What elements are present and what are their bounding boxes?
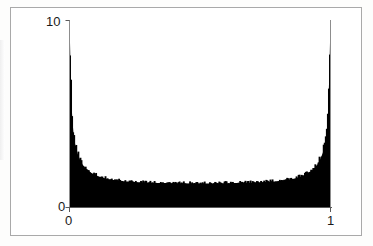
plot-area: 10 0 0 1 [0, 0, 373, 246]
x-axis-label-left: 0 [65, 214, 72, 227]
figure-root: 10 0 0 1 [0, 0, 373, 246]
y-axis-label-top: 10 [46, 15, 60, 28]
histogram-plot [0, 0, 373, 246]
histogram-bar-noise [69, 55, 331, 208]
y-axis-label-bottom: 0 [58, 200, 65, 213]
x-axis-label-right: 1 [327, 214, 334, 227]
